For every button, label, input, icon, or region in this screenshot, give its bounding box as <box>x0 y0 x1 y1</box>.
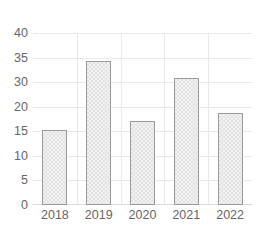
y-tick-label: 40 <box>2 27 28 40</box>
y-tick-label: 35 <box>2 51 28 64</box>
bar-chart: 40353020151050 20182019202020212022 <box>0 0 266 242</box>
plot-area <box>33 33 252 205</box>
y-axis-tick-labels: 40353020151050 <box>0 33 28 205</box>
x-tick-label: 2021 <box>172 209 200 222</box>
gridline-vertical <box>208 33 209 205</box>
gridline-vertical <box>164 33 165 205</box>
gridline-horizontal <box>33 107 252 108</box>
y-tick-label: 5 <box>2 174 28 187</box>
bar <box>174 78 199 205</box>
y-tick-label: 15 <box>2 125 28 138</box>
gridline-vertical <box>77 33 78 205</box>
gridline-horizontal <box>33 58 252 59</box>
y-tick-label: 30 <box>2 76 28 89</box>
x-axis-tick-labels: 20182019202020212022 <box>33 209 252 231</box>
x-tick-label: 2018 <box>41 209 69 222</box>
gridline-vertical <box>121 33 122 205</box>
bar <box>130 121 155 205</box>
bar <box>86 61 111 205</box>
x-tick-label: 2019 <box>85 209 113 222</box>
bar <box>218 113 243 205</box>
x-tick-label: 2022 <box>216 209 244 222</box>
bar <box>42 130 67 205</box>
x-tick-label: 2020 <box>129 209 157 222</box>
y-tick-label: 0 <box>2 199 28 212</box>
y-tick-label: 20 <box>2 100 28 113</box>
y-tick-label: 10 <box>2 150 28 163</box>
gridline-horizontal <box>33 33 252 34</box>
gridline-horizontal <box>33 82 252 83</box>
